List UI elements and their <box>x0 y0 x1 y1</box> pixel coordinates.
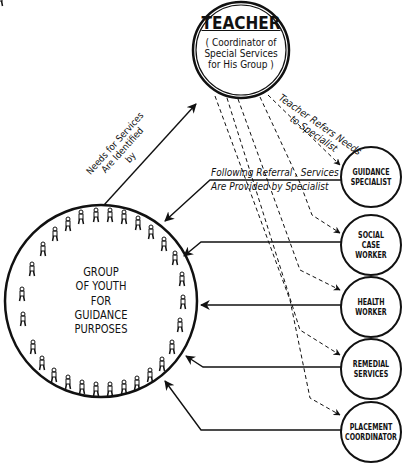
group-label: GROUP OF YOUTH FOR GUIDANCE PURPOSES <box>63 265 140 336</box>
following-annotation: Following Referral , Services Are Provid… <box>211 166 351 194</box>
node-line: SPECIALIST <box>344 178 399 188</box>
teacher-subtitle-line: Special Services <box>196 48 286 59</box>
health-worker-label: HEALTH WORKER <box>344 298 399 318</box>
service-social <box>184 242 341 256</box>
teacher-subtitle-line: ( Coordinator of <box>196 37 286 48</box>
teacher-subtitle: ( Coordinator of Special Services for Hi… <box>196 37 286 70</box>
node-line: WORKER <box>344 308 399 318</box>
group-line: GUIDANCE <box>63 308 140 322</box>
node-line: COORDINATOR <box>342 433 400 443</box>
group-line: PURPOSES <box>63 322 140 336</box>
social-case-worker-label: SOCIAL CASE WORKER <box>344 231 399 261</box>
group-line: GROUP <box>63 265 140 279</box>
service-remedial <box>186 356 341 367</box>
guidance-diagram: TEACHER ( Coordinator of Special Service… <box>0 0 406 472</box>
guidance-specialist-label: GUIDANCE SPECIALIST <box>344 168 399 188</box>
teacher-subtitle-line: for His Group ) <box>196 59 286 70</box>
annotation-line: Are Provided by Specialist <box>211 180 351 194</box>
placement-coordinator-label: PLACEMENT COORDINATOR <box>342 423 400 443</box>
youth-figures <box>0 0 3 6</box>
group-line: FOR <box>63 294 140 308</box>
node-line: WORKER <box>344 251 399 261</box>
node-line: SERVICES <box>344 370 399 380</box>
group-line: OF YOUTH <box>63 279 140 293</box>
annotation-line: Following Referral , Services <box>211 166 351 180</box>
service-placement <box>165 381 341 430</box>
teacher-title: TEACHER <box>201 14 281 33</box>
remedial-services-label: REMEDIAL SERVICES <box>344 360 399 380</box>
